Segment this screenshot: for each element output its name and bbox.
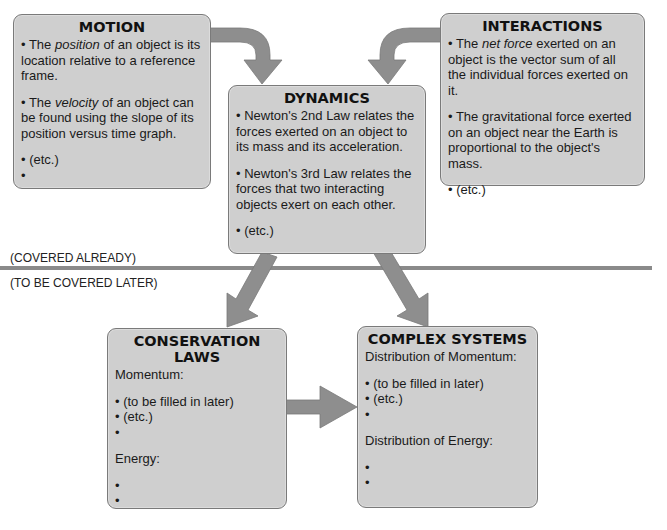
motion-item-3: • (etc.)	[21, 152, 203, 168]
dynamics-item-1: • Newton's 2nd Law relates the forces ex…	[236, 108, 418, 155]
interactions-item-3: • (etc.)	[448, 182, 637, 198]
complex-systems-box: COMPLEX SYSTEMS Distribution of Momentum…	[357, 326, 538, 508]
conservation-laws-box: CONSERVATION LAWS Momentum: • (to be fil…	[107, 328, 287, 509]
arrow-dynamics-to-conservation	[227, 252, 277, 327]
interactions-item-2: • The gravitational force exerted on an …	[448, 109, 637, 171]
complex-momentum-heading: Distribution of Momentum:	[365, 349, 530, 365]
interactions-item-1: • The net force exerted on an object is …	[448, 36, 637, 98]
arrow-dynamics-to-complex	[373, 247, 428, 327]
motion-item-4: •	[21, 168, 203, 184]
complex-energy-item-2: •	[365, 475, 530, 491]
conservation-energy-item-2: •	[115, 493, 279, 509]
conservation-momentum-item-3: •	[115, 425, 279, 441]
arrow-motion-to-dynamics	[209, 28, 282, 84]
arrow-interactions-to-dynamics	[368, 28, 441, 84]
conservation-momentum-item-2: • (etc.)	[115, 409, 279, 425]
motion-item-2: • The velocity of an object can be found…	[21, 95, 203, 142]
complex-momentum-item-1: • (to be filled in later)	[365, 376, 530, 392]
motion-item-1: • The position of an object is its locat…	[21, 37, 203, 84]
conservation-momentum-heading: Momentum:	[115, 367, 279, 383]
complex-energy-item-1: •	[365, 460, 530, 476]
dynamics-item-3: • (etc.)	[236, 223, 418, 239]
interactions-box: INTERACTIONS • The net force exerted on …	[440, 13, 645, 186]
motion-title: MOTION	[21, 19, 203, 35]
complex-momentum-item-3: •	[365, 407, 530, 423]
conservation-momentum-item-1: • (to be filled in later)	[115, 394, 279, 410]
interactions-title: INTERACTIONS	[448, 18, 637, 34]
complex-title: COMPLEX SYSTEMS	[365, 331, 530, 347]
dynamics-item-2: • Newton's 3rd Law relates the forces th…	[236, 166, 418, 213]
arrow-conservation-to-complex	[286, 386, 357, 428]
conservation-energy-item-1: •	[115, 478, 279, 494]
dynamics-title: DYNAMICS	[236, 90, 418, 106]
complex-energy-heading: Distribution of Energy:	[365, 433, 530, 449]
conservation-energy-heading: Energy:	[115, 451, 279, 467]
dynamics-box: DYNAMICS • Newton's 2nd Law relates the …	[228, 85, 426, 254]
complex-momentum-item-2: • (etc.)	[365, 391, 530, 407]
conservation-title: CONSERVATION LAWS	[115, 333, 279, 365]
motion-box: MOTION • The position of an object is it…	[13, 14, 211, 189]
